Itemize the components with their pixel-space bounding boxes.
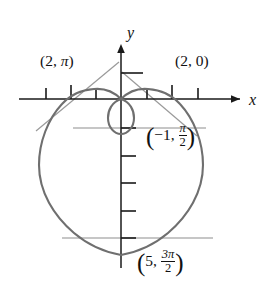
y-axis-arrowhead (117, 44, 125, 53)
point-label-neg1-fraction: π2 (179, 122, 187, 149)
point-label-2-pi-r: 2 (45, 52, 53, 69)
point-label-5-open: ( (137, 249, 145, 276)
point-label-neg1-denominator: 2 (179, 136, 187, 149)
point-label-neg1-r: −1 (154, 126, 171, 143)
x-axis-arrowhead (231, 95, 240, 103)
polar-graph-figure: x y (2, π) (2, 0) (−1, π2) (5, 3π2) (0, 0, 275, 297)
point-label-5-fraction: 3π2 (161, 248, 176, 275)
point-label-2-pi-close: ) (68, 52, 73, 69)
point-label-2-0-close: ) (203, 52, 208, 69)
point-label-5-r: 5 (145, 252, 153, 269)
point-label-5-denominator: 2 (161, 262, 176, 275)
y-axis-ticks (121, 73, 143, 238)
point-label-5-3pi-over-2: (5, 3π2) (137, 249, 184, 276)
point-label-5-close: ) (175, 249, 183, 276)
x-axis-label: x (248, 91, 256, 108)
point-label-neg1-close: ) (187, 123, 195, 150)
point-label-neg1-comma: , (171, 126, 179, 143)
tangent-line-left (36, 62, 119, 131)
point-label-2-pi: (2, π) (40, 53, 74, 69)
point-label-2-pi-comma: , (53, 52, 61, 69)
point-label-5-numerator: 3π (161, 248, 176, 262)
point-label-2-0-comma: , (188, 52, 196, 69)
point-label-neg1-numerator: π (179, 122, 187, 136)
point-label-2-0-r: 2 (180, 52, 188, 69)
point-label-neg1-open: ( (146, 123, 154, 150)
point-label-5-comma: , (153, 252, 161, 269)
y-axis-label: y (125, 24, 135, 42)
point-label-2-0: (2, 0) (175, 53, 209, 69)
point-label-neg1-pi-over-2: (−1, π2) (146, 123, 195, 150)
